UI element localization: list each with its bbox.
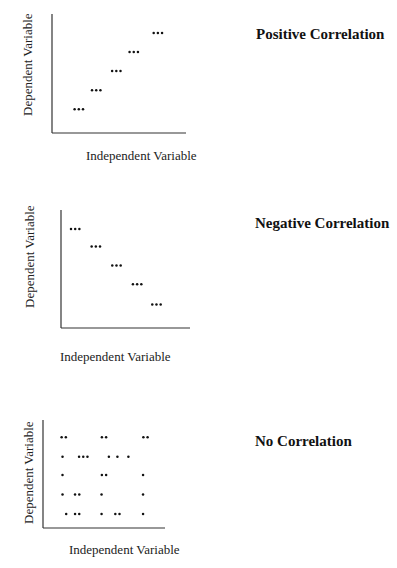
data-point (74, 493, 77, 496)
data-point (108, 455, 111, 458)
data-point (100, 493, 103, 496)
data-point (61, 455, 64, 458)
data-point (116, 455, 119, 458)
data-point-cluster (142, 474, 145, 477)
data-point (118, 513, 121, 516)
data-point (82, 455, 85, 458)
data-point (60, 436, 63, 439)
data-point-cluster (142, 436, 149, 439)
data-point-cluster (100, 493, 103, 496)
data-point-cluster (108, 455, 111, 458)
data-point (142, 436, 145, 439)
y-axis-label: Dependent Variable (21, 421, 37, 524)
data-point (74, 513, 77, 516)
data-point (105, 474, 108, 477)
data-point (78, 455, 81, 458)
data-point (142, 513, 145, 516)
data-point-cluster (114, 513, 121, 516)
data-point (65, 513, 68, 516)
data-point (86, 455, 89, 458)
data-point-cluster (65, 513, 68, 516)
data-point (142, 493, 145, 496)
data-point (78, 493, 81, 496)
data-point-cluster (78, 455, 89, 458)
data-point-cluster (100, 513, 103, 516)
data-point (127, 455, 130, 458)
data-point (101, 436, 104, 439)
data-point-cluster (116, 455, 119, 458)
data-point (65, 436, 68, 439)
data-point-cluster (101, 474, 108, 477)
data-point (114, 513, 117, 516)
data-point (61, 474, 64, 477)
data-point (61, 493, 64, 496)
x-axis-label: Independent Variable (69, 542, 180, 558)
data-point-cluster (74, 493, 81, 496)
data-point (101, 474, 104, 477)
data-point-cluster (127, 455, 130, 458)
data-point-cluster (101, 436, 108, 439)
no-correlation-plot (0, 0, 397, 568)
data-point (100, 513, 103, 516)
chart-title: No Correlation (255, 433, 352, 450)
data-point (142, 474, 145, 477)
data-point-cluster (142, 493, 145, 496)
data-point-cluster (61, 455, 64, 458)
data-point-cluster (61, 493, 64, 496)
data-point-cluster (142, 513, 145, 516)
data-point (78, 513, 81, 516)
data-point-cluster (61, 474, 64, 477)
data-point-cluster (60, 436, 67, 439)
data-point (105, 436, 108, 439)
data-point-cluster (74, 513, 81, 516)
data-point (146, 436, 149, 439)
